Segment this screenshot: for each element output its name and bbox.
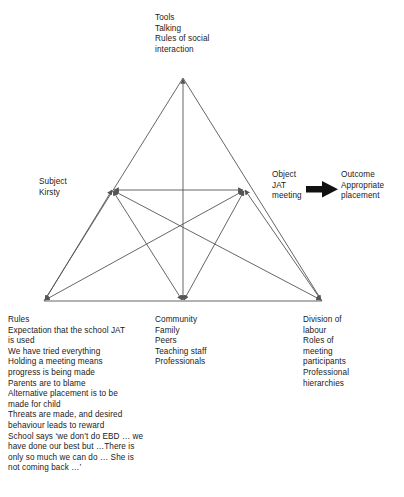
node-label-community: Community Family Peers Teaching staff Pr… bbox=[155, 315, 265, 368]
edge-division-to-object bbox=[245, 190, 321, 300]
node-label-outcome: Outcome Appropriate placement bbox=[341, 170, 403, 202]
edge-object-to-rules bbox=[45, 191, 243, 300]
edge-subject-to-division bbox=[114, 191, 321, 300]
edge-subject-to-community bbox=[113, 191, 182, 300]
activity-system-figure: Tools Talking Rules of social interactio… bbox=[0, 0, 404, 497]
node-label-division-of-labour: Division of labour Roles of meeting part… bbox=[303, 315, 401, 389]
edge-rules-to-subject bbox=[45, 190, 112, 300]
node-label-rules: Rules Expectation that the school JAT is… bbox=[8, 315, 160, 474]
node-label-object: Object JAT meeting bbox=[272, 170, 312, 202]
node-label-tools: Tools Talking Rules of social interactio… bbox=[155, 13, 275, 55]
node-label-subject: Subject Kirsty bbox=[39, 177, 109, 198]
